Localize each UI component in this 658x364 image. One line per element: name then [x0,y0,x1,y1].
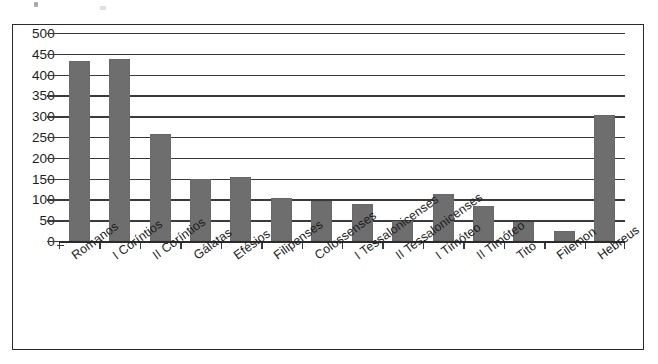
y-tick-mark [47,220,59,221]
x-tick-mark [544,243,545,249]
y-tick-mark [47,199,59,200]
y-tick-mark [47,241,59,242]
y-tick-mark [47,75,59,76]
bar-series [59,33,625,241]
bar-chart: 500450400350300250200150100500 RomanosI … [13,25,645,351]
y-tick-mark [47,95,59,96]
bar [109,59,130,241]
bar [230,177,251,241]
y-tick-mark [47,33,59,34]
y-tick-mark [47,116,59,117]
bar [69,61,90,241]
scan-artifact [34,2,38,7]
bar [594,115,615,241]
x-tick-mark [59,243,60,249]
y-tick-mark [47,137,59,138]
chart-frame: 500450400350300250200150100500 RomanosI … [12,24,644,350]
x-axis-labels: RomanosI CoríntiosII CoríntiosGálatasEfé… [59,251,625,347]
y-tick-mark [47,179,59,180]
bar [271,198,292,241]
y-tick-mark [47,158,59,159]
scan-artifact-secondary [100,6,106,10]
y-tick-mark [47,54,59,55]
